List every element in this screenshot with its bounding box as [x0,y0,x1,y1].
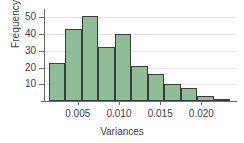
y-tick-label: 50 [25,12,36,22]
y-axis-title: Frequency [10,0,24,62]
y-tick-label: 30 [25,46,36,56]
y-tick [39,51,44,52]
y-tick [39,68,44,69]
histogram-bar [148,74,164,101]
y-tick-label: 40 [25,29,36,39]
histogram-figure: Frequency 1020304050 0.0050.0100.0150.02… [0,0,244,143]
histogram-bar [131,66,147,101]
x-axis-line [41,101,237,102]
x-tick-label: 0.015 [148,109,173,119]
plot-area: 1020304050 0.0050.0100.0150.020 [44,9,236,101]
y-tick-label: 10 [25,79,36,89]
x-tick [119,101,120,105]
y-tick [39,34,44,35]
x-tick-label: 0.010 [106,109,131,119]
x-tick-label: 0.005 [65,109,90,119]
histogram-bar [181,88,197,101]
x-tick [201,101,202,105]
histogram-bar [164,84,180,101]
x-axis-title: Variances [0,126,244,137]
y-tick-label: 20 [25,63,36,73]
x-tick-label: 0.020 [189,109,214,119]
x-tick [160,101,161,105]
y-tick [39,84,44,85]
x-tick [78,101,79,105]
gridline [45,17,236,18]
y-tick [39,17,44,18]
histogram-bar [98,47,114,101]
histogram-bar [115,34,131,101]
histogram-bar [65,29,81,101]
histogram-bar [49,63,65,101]
histogram-bar [82,16,98,101]
y-axis-line [44,9,45,102]
